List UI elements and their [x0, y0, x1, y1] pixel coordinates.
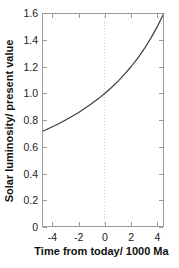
solar-luminosity-chart: 00.20.40.60.81.01.21.41.6 -4-2024 Solar … [0, 0, 179, 268]
x-axis-label: Time from today/ 1000 Ma [24, 245, 179, 257]
x-tick-label: 2 [119, 231, 143, 243]
x-tick-label: -2 [67, 231, 91, 243]
x-tick-label: 4 [145, 231, 169, 243]
luminosity-curve [42, 13, 164, 132]
axes-frame [43, 14, 164, 227]
y-axis-label: Solar luminosity/ present value [3, 14, 17, 228]
x-tick-label: 0 [93, 231, 117, 243]
x-tick-label: -4 [40, 231, 64, 243]
